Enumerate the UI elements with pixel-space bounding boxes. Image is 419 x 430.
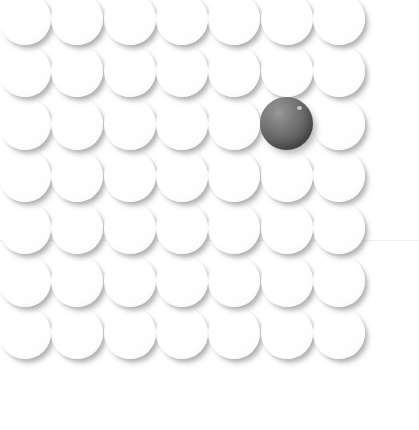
sphere-array: [0, 0, 419, 430]
distractor-sphere: [0, 0, 51, 45]
distractor-sphere: [104, 0, 156, 45]
distractor-sphere: [104, 255, 156, 307]
distractor-sphere: [0, 98, 51, 150]
distractor-sphere: [104, 307, 156, 359]
distractor-sphere: [261, 0, 313, 45]
distractor-sphere: [156, 45, 208, 97]
distractor-sphere: [313, 45, 365, 97]
distractor-sphere: [313, 255, 365, 307]
distractor-sphere: [104, 45, 156, 97]
distractor-sphere: [0, 202, 51, 254]
distractor-sphere: [208, 307, 260, 359]
distractor-sphere: [156, 0, 208, 45]
distractor-sphere: [51, 255, 103, 307]
distractor-sphere: [261, 150, 313, 202]
distractor-sphere: [208, 45, 260, 97]
distractor-sphere: [156, 307, 208, 359]
distractor-sphere: [208, 255, 260, 307]
distractor-sphere: [156, 150, 208, 202]
distractor-sphere: [156, 255, 208, 307]
specular-highlight: [297, 106, 302, 110]
distractor-sphere: [208, 150, 260, 202]
distractor-sphere: [51, 307, 103, 359]
distractor-sphere: [51, 98, 103, 150]
distractor-sphere: [0, 255, 51, 307]
distractor-sphere: [261, 255, 313, 307]
distractor-sphere: [0, 45, 51, 97]
distractor-sphere: [156, 202, 208, 254]
distractor-sphere: [156, 98, 208, 150]
target-sphere: [260, 97, 313, 150]
distractor-sphere: [104, 150, 156, 202]
distractor-sphere: [104, 98, 156, 150]
distractor-sphere: [313, 0, 365, 45]
distractor-sphere: [208, 98, 260, 150]
distractor-sphere: [313, 150, 365, 202]
distractor-sphere: [51, 202, 103, 254]
distractor-sphere: [208, 0, 260, 45]
distractor-sphere: [261, 45, 313, 97]
distractor-sphere: [313, 202, 365, 254]
distractor-sphere: [0, 150, 51, 202]
distractor-sphere: [0, 307, 51, 359]
distractor-sphere: [51, 150, 103, 202]
distractor-sphere: [104, 202, 156, 254]
distractor-sphere: [261, 307, 313, 359]
distractor-sphere: [313, 98, 365, 150]
distractor-sphere: [208, 202, 260, 254]
visual-search-stimulus: [0, 0, 419, 430]
distractor-sphere: [261, 202, 313, 254]
distractor-sphere: [51, 45, 103, 97]
distractor-sphere: [51, 0, 103, 45]
distractor-sphere: [313, 307, 365, 359]
